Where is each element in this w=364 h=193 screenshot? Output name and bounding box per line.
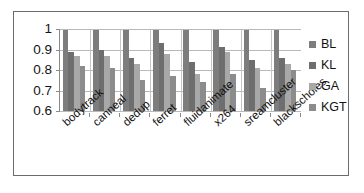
category-separator: [150, 29, 151, 111]
y-axis-tick-label: 0.8: [33, 63, 52, 77]
y-axis-tick-mark: [56, 111, 60, 112]
y-axis-tick-label: 0.6: [33, 104, 52, 118]
legend-item-bl[interactable]: BL: [309, 34, 354, 55]
legend-label: KL: [321, 59, 336, 72]
category-separator: [181, 29, 182, 111]
legend-swatch-icon: [309, 83, 316, 90]
x-axis-tick-mark: [149, 113, 150, 117]
legend-swatch-icon: [309, 62, 316, 69]
y-axis-tick-mark: [56, 50, 60, 51]
legend-label: BL: [321, 38, 336, 51]
legend-item-kl[interactable]: KL: [309, 55, 354, 76]
gridline-top: [60, 29, 301, 30]
y-axis-tick-mark: [56, 91, 60, 92]
y-axis-tick-mark: [56, 70, 60, 71]
x-axis-tick-mark: [89, 113, 90, 117]
legend-label: GA: [321, 80, 339, 93]
legend-item-ga[interactable]: GA: [309, 76, 354, 97]
x-axis-tick-mark: [300, 113, 301, 117]
y-axis-tick-label: 1: [44, 22, 52, 36]
legend-item-kgt[interactable]: KGT: [309, 97, 354, 118]
x-axis-tick-mark: [240, 113, 241, 117]
y-axis-tick-labels: 0.60.70.80.91: [14, 29, 54, 112]
chart-container: 0.60.70.80.91 bodytrackcannealdedupferre…: [13, 11, 349, 176]
y-axis-tick-label: 0.9: [33, 43, 52, 57]
bar-group: [153, 29, 175, 111]
legend-swatch-icon: [309, 41, 316, 48]
x-axis-tick-mark: [270, 113, 271, 117]
legend-label: KGT: [321, 101, 347, 114]
chart-legend: BLKLGAKGT: [309, 34, 354, 118]
x-axis-tick-mark: [180, 113, 181, 117]
x-axis-tick-mark: [210, 113, 211, 117]
category-separator: [241, 29, 242, 111]
x-axis-tick-labels: bodytrackcannealdedupferretfluidanimatex…: [59, 113, 301, 173]
x-axis-tick-mark: [119, 113, 120, 117]
y-axis-tick-label: 0.7: [33, 84, 52, 98]
legend-swatch-icon: [309, 104, 316, 111]
